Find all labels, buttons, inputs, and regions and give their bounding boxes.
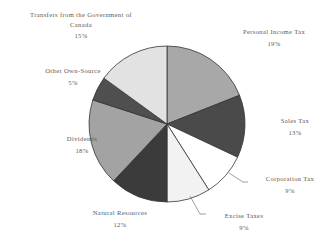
slice-label-percent: 9%: [206, 223, 282, 233]
slice-label-natural-resources: Natural Resources 12%: [70, 208, 170, 229]
slice-label-percent: 12%: [70, 220, 170, 230]
slice-label-percent: 19%: [218, 39, 330, 49]
slice-label-personal-income-tax: Personal Income Tax 19%: [218, 27, 330, 48]
slice-label-text-line1: Transfers from the Government of: [2, 10, 160, 20]
pie-chart-figure: Transfers from the Government of Canada …: [0, 0, 334, 245]
slice-label-dividends: Dividends 18%: [46, 134, 118, 155]
slice-label-percent: 15%: [2, 31, 160, 41]
slice-label-excise-taxes: Excise Taxes 9%: [206, 211, 282, 232]
leader-line-excise-taxes: [190, 196, 206, 214]
slice-label-text: Excise Taxes: [206, 211, 282, 221]
slice-label-text: Natural Resources: [70, 208, 170, 218]
leader-line-corporation-tax: [229, 173, 248, 182]
slice-label-sales-tax: Sales Tax 13%: [262, 116, 328, 137]
slice-label-text: Sales Tax: [262, 116, 328, 126]
slice-label-other-own-source: Other Own-Source 5%: [22, 66, 124, 87]
slice-label-text: Corporation Tax: [248, 174, 332, 184]
slice-label-corporation-tax: Corporation Tax 9%: [248, 174, 332, 195]
slice-label-text: Other Own-Source: [22, 66, 124, 76]
slice-label-text: Dividends: [46, 134, 118, 144]
slice-label-percent: 5%: [22, 78, 124, 88]
slice-label-text-line2: Canada: [2, 20, 160, 30]
slice-label-percent: 13%: [262, 128, 328, 138]
slice-label-text: Personal Income Tax: [218, 27, 330, 37]
slice-label-transfers-from-government-of-canada: Transfers from the Government of Canada …: [2, 10, 160, 41]
chart-canvas: Transfers from the Government of Canada …: [0, 0, 334, 245]
slice-label-percent: 9%: [248, 186, 332, 196]
slice-label-percent: 18%: [46, 146, 118, 156]
